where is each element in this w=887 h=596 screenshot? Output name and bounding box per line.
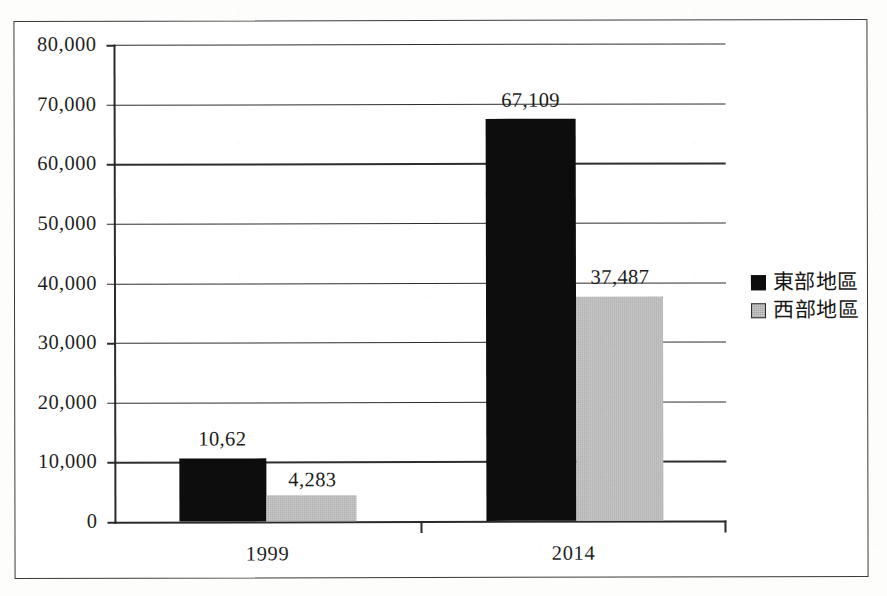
y-tick-label-10000: 10,000	[38, 450, 97, 473]
bar-label-1999-west: 4,283	[288, 468, 336, 491]
legend-item-east: 東部地區	[751, 272, 859, 293]
y-tick-20000: 20,000	[107, 402, 116, 404]
y-tick-40000: 40,000	[107, 283, 116, 285]
legend-swatch-east-icon	[751, 275, 766, 290]
legend-swatch-west-icon	[751, 303, 766, 318]
plot-area: 80,000 70,000 60,000 50,000 40,000 30,00…	[113, 43, 726, 523]
y-tick-label-40000: 40,000	[38, 271, 97, 294]
y-tick-30000: 30,000	[107, 343, 116, 345]
y-tick-10000: 10,000	[107, 462, 116, 464]
legend-label-east: 東部地區	[773, 272, 859, 293]
y-tick-label-20000: 20,000	[38, 391, 97, 414]
scanned-page: 80,000 70,000 60,000 50,000 40,000 30,00…	[0, 0, 887, 596]
y-tick-60000: 60,000	[107, 164, 116, 166]
y-tick-label-50000: 50,000	[37, 212, 96, 235]
x-axis-label-2014: 2014	[552, 542, 595, 565]
y-tick-label-70000: 70,000	[37, 92, 96, 115]
y-tick-0: 0	[107, 522, 116, 524]
y-tick-label-80000: 80,000	[37, 33, 96, 56]
bar-label-1999-east: 10,62	[198, 427, 246, 450]
bar-1999-west	[266, 496, 356, 522]
y-tick-label-30000: 30,000	[38, 331, 97, 354]
gridline-60000	[114, 163, 726, 166]
bar-1999-east	[179, 458, 266, 522]
y-tick-70000: 70,000	[107, 104, 116, 106]
legend-item-west: 西部地區	[751, 300, 859, 321]
chart-frame: 80,000 70,000 60,000 50,000 40,000 30,00…	[13, 19, 868, 579]
bar-2014-east	[486, 119, 577, 521]
x-axis-label-1999: 1999	[246, 542, 289, 565]
y-tick-80000: 80,000	[106, 45, 115, 47]
bar-label-2014-east: 67,109	[501, 89, 560, 112]
bar-2014-west	[576, 296, 663, 521]
y-tick-label-0: 0	[87, 510, 98, 533]
x-tick-divider	[420, 521, 422, 533]
legend-label-west: 西部地區	[773, 300, 859, 321]
x-tick-end	[724, 520, 726, 532]
gridline-70000	[114, 103, 726, 106]
bar-label-2014-west: 37,487	[591, 266, 650, 289]
gridline-50000	[114, 222, 726, 225]
y-tick-label-60000: 60,000	[37, 152, 96, 175]
gridline-80000	[113, 43, 725, 46]
y-tick-50000: 50,000	[107, 224, 116, 226]
chart-legend: 東部地區 西部地區	[751, 272, 859, 321]
